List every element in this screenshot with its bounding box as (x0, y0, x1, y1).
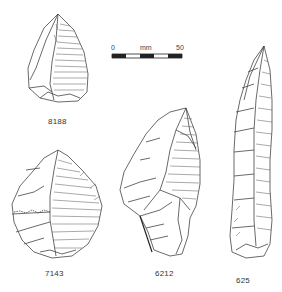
artifact-label-6212: 6212 (155, 269, 174, 278)
artifact-625-drawing (230, 46, 272, 258)
scale-unit-label: mm (140, 44, 152, 51)
artifact-7143-drawing (12, 150, 102, 258)
artifact-8188-drawing (28, 14, 88, 102)
artifact-label-7143: 7143 (45, 269, 64, 278)
scale-start-label: 0 (111, 44, 115, 51)
artifact-label-625: 625 (236, 276, 250, 285)
scale-end-label: 50 (176, 44, 184, 51)
lithic-illustration-plate: 0 mm 50 8188 7143 6212 625 (0, 0, 282, 292)
artifact-6212-drawing (120, 108, 200, 256)
artifact-label-8188: 8188 (48, 117, 67, 126)
scale-bar (112, 54, 182, 58)
